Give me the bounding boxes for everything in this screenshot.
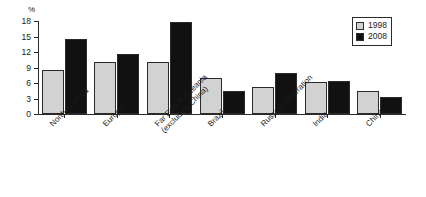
- y-tick-label: 3: [5, 95, 31, 104]
- legend: 1998 2008: [352, 17, 392, 46]
- legend-label-1998: 1998: [368, 21, 387, 30]
- y-tick-label: 9: [5, 64, 31, 73]
- bar-1998: [147, 62, 169, 114]
- bar-group: [94, 21, 139, 114]
- legend-item-2008: 2008: [356, 31, 387, 42]
- y-tick-label: 18: [5, 17, 31, 26]
- bar-1998: [42, 70, 64, 114]
- bar-2008: [223, 91, 245, 114]
- legend-swatch-2008-icon: [356, 33, 364, 41]
- bar-2008: [328, 81, 350, 114]
- bar-1998: [94, 62, 116, 114]
- y-tick-label: 6: [5, 79, 31, 88]
- plot-area: [38, 21, 406, 114]
- bar-group: [305, 21, 350, 114]
- y-tick-mark: [34, 114, 39, 115]
- bar-group: [200, 21, 245, 114]
- legend-item-1998: 1998: [356, 20, 387, 31]
- y-tick-label: 12: [5, 48, 31, 57]
- bar-chart: % 1815129630 North AmericaEuropeFar East…: [0, 0, 426, 197]
- y-tick-label: 15: [5, 33, 31, 42]
- legend-swatch-1998-icon: [356, 22, 364, 30]
- y-axis-unit-label: %: [28, 5, 35, 14]
- y-tick-label: 0: [5, 110, 31, 119]
- legend-label-2008: 2008: [368, 32, 387, 41]
